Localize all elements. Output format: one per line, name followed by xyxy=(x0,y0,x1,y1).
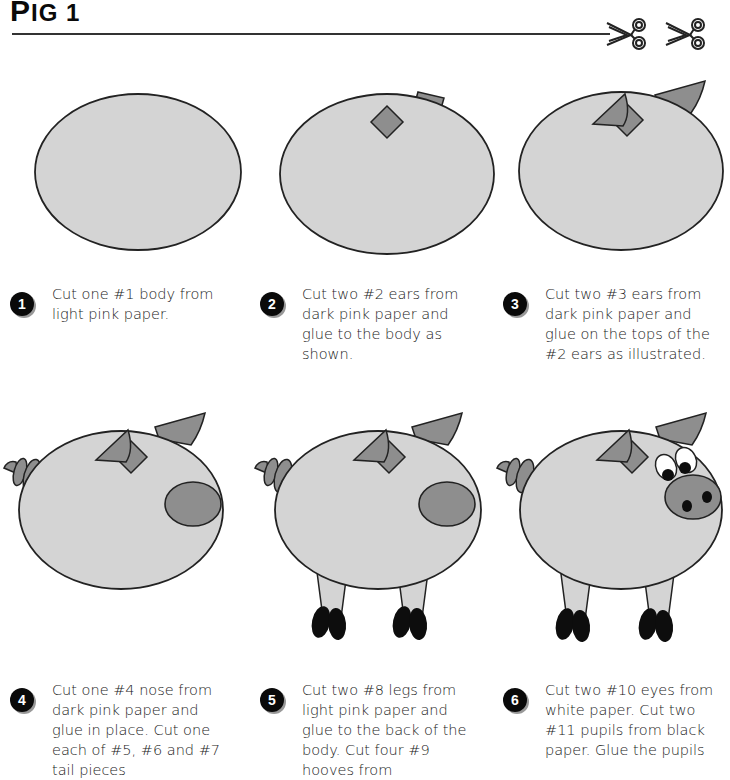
step-number-badge: 6 xyxy=(503,688,527,712)
instruction-step-1: 1 Cut one #1 body from light pink paper. xyxy=(10,284,232,324)
step-number-badge: 3 xyxy=(503,292,527,316)
pig-step-6 xyxy=(497,413,722,643)
pig-step-2 xyxy=(280,92,494,254)
step-number-badge: 5 xyxy=(260,688,284,712)
pig-step-5 xyxy=(255,413,481,641)
instruction-step-5: 5 Cut two #8 legs from light pink paper … xyxy=(260,680,482,780)
step-text: Cut two #2 ears from dark pink paper and… xyxy=(302,284,482,364)
step-number-badge: 2 xyxy=(260,292,284,316)
pig-step-1 xyxy=(35,94,241,250)
instruction-step-3: 3 Cut two #3 ears from dark pink paper a… xyxy=(503,284,725,364)
instruction-step-2: 2 Cut two #2 ears from dark pink paper a… xyxy=(260,284,482,364)
step-number-badge: 4 xyxy=(10,688,34,712)
instruction-step-4: 4 Cut one #4 nose from dark pink paper a… xyxy=(10,680,232,780)
instruction-step-6: 6 Cut two #10 eyes from white paper. Cut… xyxy=(503,680,725,760)
pig-step-4 xyxy=(4,413,223,589)
pig-step-3 xyxy=(519,81,723,250)
step-text: Cut two #3 ears from dark pink paper and… xyxy=(545,284,725,364)
step-text: Cut two #8 legs from light pink paper an… xyxy=(302,680,482,780)
step-text: Cut one #1 body from light pink paper. xyxy=(52,284,232,324)
step-text: Cut two #10 eyes from white paper. Cut t… xyxy=(545,680,725,760)
step-number-badge: 1 xyxy=(10,292,34,316)
step-text: Cut one #4 nose from dark pink paper and… xyxy=(52,680,232,780)
